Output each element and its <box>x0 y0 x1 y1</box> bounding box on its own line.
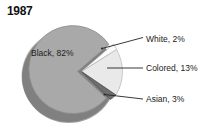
leader-anchor-asian <box>103 93 105 95</box>
slice-label-asian: Asian, 3% <box>146 94 184 104</box>
slice-label-colored: Colored, 13% <box>146 63 198 73</box>
slice-label-white: White, 2% <box>146 34 185 44</box>
leader-anchor-white <box>101 47 103 49</box>
slice-label-black: Black, 82% <box>31 48 74 58</box>
pie-chart-figure: 1987 Black, 82% <box>0 0 210 132</box>
